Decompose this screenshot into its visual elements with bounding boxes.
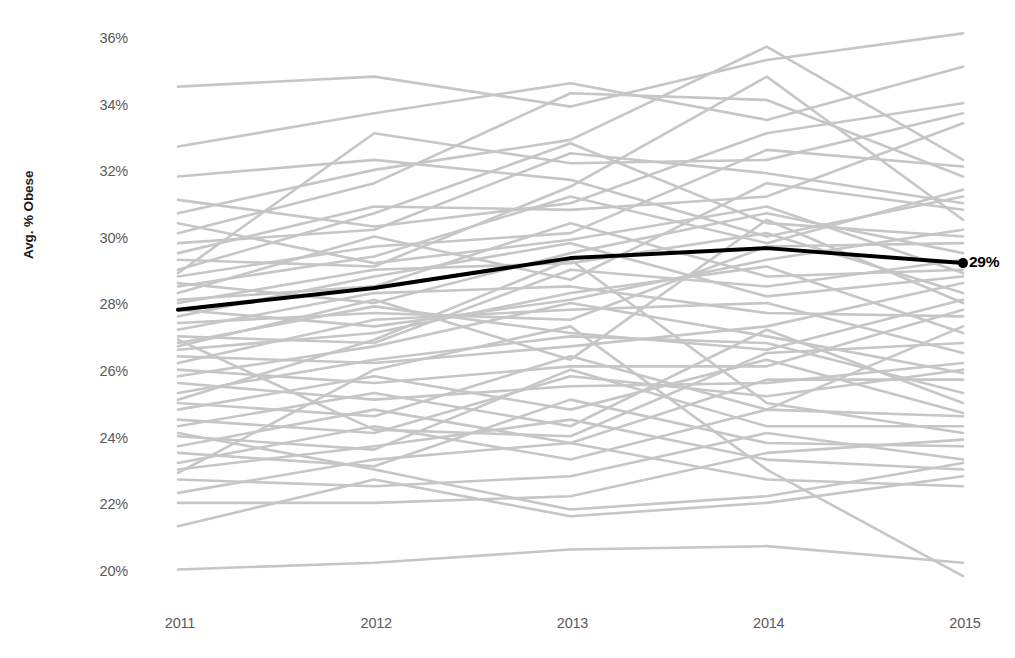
endpoint-value-label: 29% [969, 253, 999, 271]
average-endpoint-dot [958, 258, 968, 268]
spaghetti-chart: Avg. % Obese 36%34%32%30%28%26%24%22%20%… [0, 0, 1015, 658]
plot-area [0, 0, 1015, 658]
background-series-line [178, 443, 963, 493]
background-series-line [178, 103, 963, 226]
background-series-group [178, 33, 963, 576]
x-tick-label: 2013 [533, 615, 613, 631]
background-series-line [178, 340, 963, 437]
x-tick-label: 2011 [140, 615, 220, 631]
x-tick-label: 2012 [336, 615, 416, 631]
x-tick-label: 2015 [925, 615, 1005, 631]
background-series-line [178, 77, 963, 267]
background-series-line [178, 33, 963, 106]
background-series-line [178, 546, 963, 569]
x-tick-label: 2014 [729, 615, 809, 631]
